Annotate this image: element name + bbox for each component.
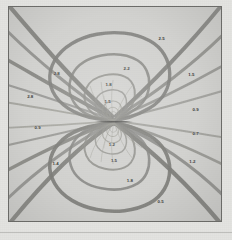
dipole-singularity — [95, 121, 133, 122]
contour-plot-frame: 2.5 2.2 1.8 1.5 2.8 1.5 2.8 0.9 0.9 0.7 … — [8, 6, 222, 222]
contour-curves — [9, 7, 221, 221]
contour-label: 1.8 — [106, 83, 112, 87]
contour-label: 1.5 — [111, 159, 117, 163]
contour-label: 2.8 — [54, 72, 60, 76]
page-edge-line — [0, 232, 232, 233]
contour-label: 2.2 — [124, 67, 130, 71]
contour-label: 0.9 — [35, 126, 41, 130]
contour-label: 1.5 — [105, 100, 111, 104]
figure-page: 2.5 2.2 1.8 1.5 2.8 1.5 2.8 0.9 0.9 0.7 … — [0, 0, 232, 240]
contour-label: 2.8 — [27, 95, 33, 99]
contour-label: 0.9 — [192, 108, 198, 112]
contour-label: 1.5 — [188, 73, 194, 77]
contour-label: 0.7 — [192, 132, 198, 136]
contour-label: 1.8 — [127, 179, 133, 183]
contour-label: 1.2 — [189, 160, 195, 164]
contour-label: 1.2 — [109, 143, 115, 147]
contour-label: 0.5 — [158, 200, 164, 204]
contour-label: 2.5 — [159, 37, 165, 41]
contour-label: 1.4 — [53, 162, 59, 166]
